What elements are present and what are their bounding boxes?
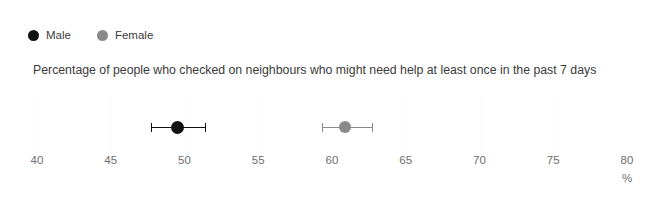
confidence-interval-cap-high [372,123,373,132]
legend-label-female: Female [115,27,153,43]
x-axis-tick-label: 75 [547,152,560,168]
legend-item-male[interactable]: Male [28,27,71,43]
x-axis-tick-label: 45 [104,152,117,168]
x-axis-tick-label: 65 [399,152,412,168]
confidence-interval-cap-low [322,123,323,132]
legend-item-female[interactable]: Female [97,27,153,43]
chart-title: Percentage of people who checked on neig… [33,62,596,78]
x-axis-tick-label: 70 [473,152,486,168]
x-axis-tick-label: 55 [252,152,265,168]
dot-plot-chart: Male Female Percentage of people who che… [0,0,663,212]
chart-legend: Male Female [28,27,153,43]
circle-marker-icon [28,30,39,41]
x-axis: 404550556065707580 [0,152,663,172]
circle-marker-icon [97,30,108,41]
x-axis-tick-label: 80 [621,152,634,168]
x-axis-tick-label: 50 [178,152,191,168]
data-point-female[interactable] [339,121,351,133]
series-female [0,96,663,152]
x-axis-tick-label: 60 [326,152,339,168]
x-axis-tick-label: 40 [31,152,44,168]
x-axis-unit-label: % [622,170,632,186]
plot-area [0,96,663,152]
legend-label-male: Male [46,27,71,43]
